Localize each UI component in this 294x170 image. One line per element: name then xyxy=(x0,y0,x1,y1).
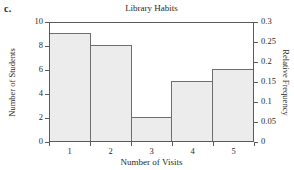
tick-mark xyxy=(254,42,258,43)
y-axis-right-tick-label: 0 xyxy=(261,137,265,146)
y-axis-left-tick-label: 8 xyxy=(39,41,43,50)
y-axis-left-tick-label: 4 xyxy=(39,89,43,98)
y-axis-right-tick-label: 0.1 xyxy=(261,97,272,106)
y-axis-left-tick-label: 0 xyxy=(39,137,43,146)
x-axis-tick-label: 4 xyxy=(181,146,205,157)
y-axis-right-ticks: 00.050.10.150.20.250.3 xyxy=(254,22,284,142)
tick-mark xyxy=(254,122,258,123)
chart-title: Library Habits xyxy=(49,3,254,14)
x-axis-tick-label: 2 xyxy=(99,146,123,157)
x-axis-tick-label: 3 xyxy=(140,146,164,157)
y-axis-left-title-text: Number of Students xyxy=(8,48,17,116)
x-axis-title: Number of Visits xyxy=(49,157,254,168)
y-axis-left-tick-label: 10 xyxy=(35,17,44,26)
x-axis-tick xyxy=(254,142,255,146)
bar xyxy=(90,45,132,141)
y-axis-right-tick-label: 0.15 xyxy=(261,77,276,86)
y-axis-right-tick-label: 0.25 xyxy=(261,37,276,46)
y-axis-left-tick-label: 6 xyxy=(39,65,43,74)
y-axis-left-tick-label: 2 xyxy=(39,113,43,122)
tick-mark xyxy=(254,62,258,63)
tick-mark xyxy=(254,82,258,83)
histogram-figure: c. Library Habits Number of Students Rel… xyxy=(0,0,294,170)
bar xyxy=(131,117,173,141)
y-axis-right-tick-label: 0.05 xyxy=(261,117,276,126)
bar xyxy=(50,33,91,141)
plot-area xyxy=(49,22,254,142)
bar xyxy=(171,81,213,141)
y-axis-right-tick-label: 0.3 xyxy=(261,17,272,26)
y-axis-right-tick-label: 0.2 xyxy=(261,57,272,66)
bar-series xyxy=(50,23,253,141)
tick-mark xyxy=(254,102,258,103)
part-label: c. xyxy=(4,3,11,14)
x-axis-tick-label: 5 xyxy=(222,146,246,157)
y-axis-left-ticks: 0246810 xyxy=(20,22,49,142)
y-axis-left-title: Number of Students xyxy=(5,22,19,142)
tick-mark xyxy=(254,22,258,23)
x-axis-tick-label: 1 xyxy=(58,146,82,157)
bar xyxy=(212,69,253,141)
